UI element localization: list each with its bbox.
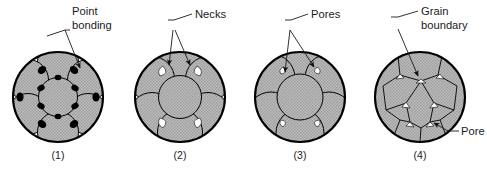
grain <box>39 78 78 117</box>
panel-4-label-pore: Pore <box>461 125 485 137</box>
panel-4-label-line2: boundary <box>421 19 468 31</box>
panel-3-caption: (3) <box>294 149 307 161</box>
sintering-stages-figure: Point bonding (1) Necks (2) <box>0 0 487 175</box>
panel-3-label-line1: Pores <box>311 8 341 20</box>
panel-1-label-line2: bonding <box>72 19 112 31</box>
panel-2-label-line1: Necks <box>195 8 226 20</box>
panel-1-label-line1: Point <box>72 5 98 17</box>
panel-4-caption: (4) <box>414 149 427 161</box>
panel-4-label-line1: Grain <box>421 5 448 17</box>
grain <box>277 74 323 120</box>
panel-1-caption: (1) <box>52 149 65 161</box>
grain <box>159 76 202 119</box>
panel-2-caption: (2) <box>174 149 187 161</box>
